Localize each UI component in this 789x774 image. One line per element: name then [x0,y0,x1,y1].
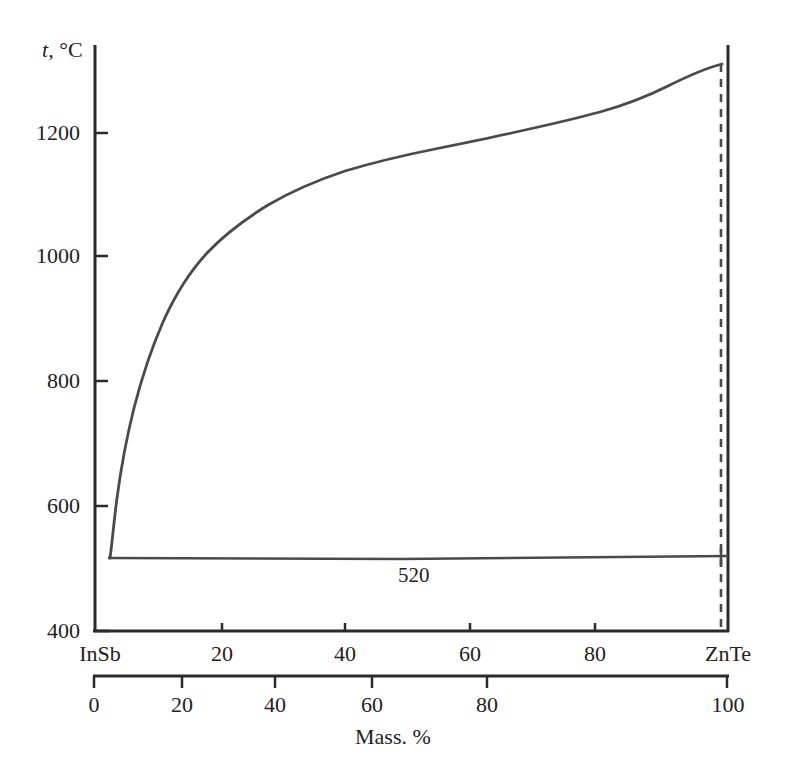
eutectic-line [108,556,728,559]
x-secondary-tick-label-0: 0 [54,692,134,718]
x-secondary-tick-label-40: 40 [235,692,315,718]
x-tick-label-20: 20 [182,641,262,667]
x-tick-label-40: 40 [305,641,385,667]
x-tick-label-80: 80 [555,641,635,667]
y-axis-title: t, °C [42,37,83,63]
liquidus-curve [110,64,722,558]
x-axis-secondary-title: Mass. % [355,724,431,750]
y-tick-label-800: 800 [8,368,80,394]
y-tick-label-1000: 1000 [8,243,80,269]
x-axis-secondary-ticks [94,676,727,688]
x-tick-label-insb: InSb [55,641,145,667]
x-secondary-tick-label-20: 20 [142,692,222,718]
x-tick-label-60: 60 [430,641,510,667]
phase-diagram-figure: t, °C 400 600 800 1000 1200 InSb 20 40 6… [0,0,789,774]
y-tick-label-1200: 1200 [8,120,80,146]
x-tick-label-znte: ZnTe [683,641,773,667]
x-secondary-tick-label-60: 60 [332,692,412,718]
y-axis-title-unit: , °C [48,37,82,62]
x-secondary-tick-label-80: 80 [447,692,527,718]
y-tick-label-600: 600 [8,493,80,519]
y-axis-ticks [95,133,110,631]
eutectic-temperature-label: 520 [398,563,430,588]
x-secondary-tick-label-100: 100 [688,692,768,718]
